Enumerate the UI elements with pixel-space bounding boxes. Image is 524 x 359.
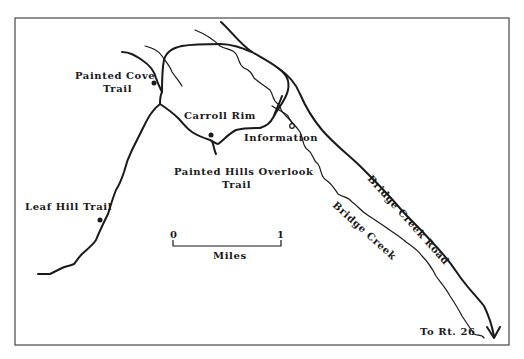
map-frame — [15, 18, 509, 345]
leaf-hill-trailhead-marker — [98, 218, 103, 223]
label-painted-cove: Painted Cove — [75, 70, 155, 81]
label-bridge-creek-road: Bridge Creek Road — [366, 173, 452, 267]
scale-bar: 0 1 Miles — [170, 229, 285, 261]
scale-bar-line — [173, 240, 281, 246]
label-bridge-creek: Bridge Creek — [331, 199, 399, 262]
label-painted-cove-trail: Trail — [103, 83, 132, 94]
label-carroll-rim: Carroll Rim — [184, 110, 256, 121]
scale-bar-start: 0 — [170, 229, 178, 240]
label-leaf-hill: Leaf Hill Trail — [25, 201, 112, 212]
information-marker — [290, 124, 295, 129]
park-map: Painted Cove Trail Carroll Rim Informati… — [0, 0, 524, 359]
painted-cove-trailhead-marker — [152, 81, 157, 86]
bridge-creek-road — [221, 22, 494, 336]
scale-bar-end: 1 — [277, 229, 285, 240]
upper-loop-trail — [162, 44, 252, 92]
label-information: Information — [244, 132, 318, 143]
carroll-rim-trailhead-marker — [209, 133, 214, 138]
scale-bar-unit: Miles — [213, 250, 247, 261]
leaf-hill-trail — [38, 104, 160, 274]
label-painted-hills-trail: Trail — [222, 179, 251, 190]
label-painted-hills: Painted Hills Overlook — [174, 166, 314, 177]
label-to-rt26: To Rt. 26 — [420, 326, 476, 337]
